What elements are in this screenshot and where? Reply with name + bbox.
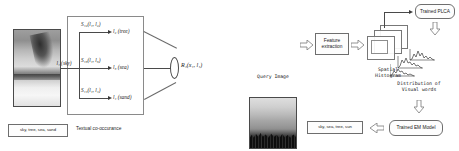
beach-landscape-photo [13,29,61,107]
branch-line-1 [79,32,109,33]
plca-connector-vertical [384,12,385,28]
input-node-label: l₁ (sky) [50,60,78,66]
visual-words-distribution-chart [390,48,442,78]
plca-connector-horizontal [384,12,410,13]
branch-formula-1: S₁₂(l₁, l₂) [81,21,117,27]
branch-arrow-1 [108,30,112,34]
converge-line-top [144,31,177,49]
plca-connector-arrow [409,10,413,14]
query-image-photo [249,97,297,149]
converge-line-mid [144,68,172,69]
right-result-tags-text: sky, sea, tree, sun [318,125,352,129]
distribution-curve-1 [390,64,415,76]
arrow-feature-to-histogram [351,40,364,50]
arrow-plca-to-distribution [430,22,440,35]
branch-spine [79,32,80,98]
arrow-em-to-results [370,123,384,133]
feature-extraction-box: Feature extraction [315,33,349,55]
query-image-label: Query Image [243,74,303,79]
branch-target-1: l₂ (tree) [113,28,143,34]
arrow-query-to-feature [300,40,313,50]
trained-plca-label: Trained PLCA [420,9,450,14]
distribution-curve-2 [398,56,423,68]
branch-formula-2: S₁₃(l₁, l₃) [81,57,117,63]
arrow-distribution-to-em [414,100,424,113]
branch-arrow-2 [108,66,112,70]
input-connector-line [61,68,79,69]
branch-line-2 [79,68,109,69]
left-result-tags-text: sky, tree, sea, sand [20,128,56,132]
left-result-tags-box: sky, tree, sea, sand [8,124,68,137]
trained-plca-box: Trained PLCA [415,4,455,19]
branch-arrow-3 [108,96,112,100]
feature-extraction-label: Feature extraction [322,38,343,49]
distribution-curve-3 [410,49,435,60]
right-result-tags-box: sky, sea, tree, sun [307,121,363,134]
figure-canvas: l₁ (sky) S₁₂(l₁, l₂) l₂ (tree) S₁₃(l₁, l… [0,0,459,151]
output-node-label: R₄(x₁, l₁) [181,62,225,68]
branch-formula-3: S₁₄(l₁, l₄) [81,87,117,93]
histogram-cell [371,40,388,54]
branch-line-3 [79,98,109,99]
output-junction-node [170,57,179,79]
trained-em-model-label: Trained EM Model [396,125,435,130]
converge-line-bottom [144,82,176,100]
branch-target-3: l₄ (sand) [113,94,143,100]
textual-cooccurrence-caption: Textual co-occurance [76,126,146,131]
distribution-label: Distribution of Visual words [385,81,453,92]
trained-em-model-box: Trained EM Model [389,120,443,136]
branch-target-2: l₃ (sea) [113,64,143,70]
